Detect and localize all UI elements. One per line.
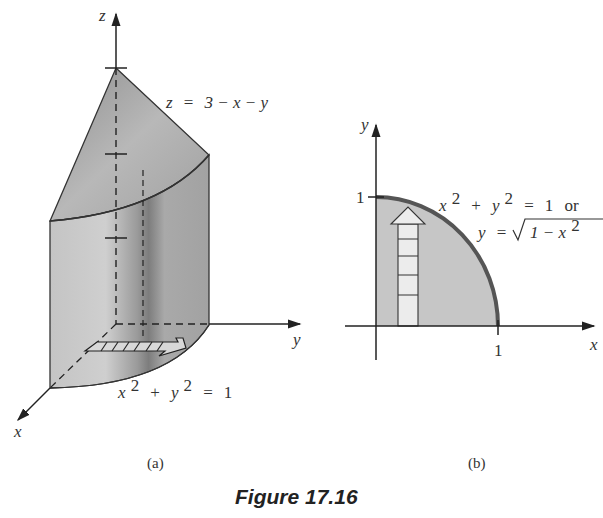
base-curve-equation: x 2 + y 2 = 1 [117,376,232,402]
x-axis-label: x [13,422,22,441]
panel-b-region: y x 1 1 x 2 + y 2 = 1 or y = 1 − x 2 [345,115,603,360]
x-axis [18,388,50,420]
panel-a-solid: z y x z = 3 − x − y x 2 + y 2 = 1 [13,6,301,441]
y-axis-label-2d: y [359,115,369,134]
panel-b-label: (b) [468,455,486,472]
surface-equation: z = 3 − x − y [165,93,268,112]
x-tick-label: 1 [494,341,503,360]
y-axis-label: y [291,330,301,349]
figure-canvas: z y x z = 3 − x − y x 2 + y 2 = 1 [0,0,603,518]
z-axis-label: z [98,6,106,25]
x-axis-label-2d: x [589,335,598,354]
svg-text:1 − x 2: 1 − x 2 [530,216,580,242]
svg-text:y =: y = [476,223,506,242]
curve-equation-line2: y = 1 − x 2 [476,216,603,242]
curve-equation-line1: x 2 + y 2 = 1 or [438,189,579,215]
figure-caption: Figure 17.16 [235,485,358,509]
panel-a-label: (a) [147,455,164,472]
y-tick-label: 1 [356,188,365,207]
